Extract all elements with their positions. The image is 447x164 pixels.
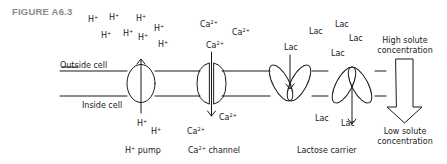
- h-pump-label: H+ pump: [125, 145, 161, 155]
- lac-molecules: Lac Lac Lac Lac Lac Lac Lac: [284, 20, 363, 128]
- svg-text:H+: H+: [158, 39, 168, 49]
- svg-text:H+: H+: [137, 118, 147, 128]
- svg-text:Lac: Lac: [341, 119, 355, 128]
- svg-text:H+: H+: [109, 12, 119, 22]
- svg-text:Ca2+: Ca2+: [232, 27, 250, 37]
- svg-text:H+: H+: [101, 30, 111, 40]
- svg-text:Low solute: Low solute: [384, 127, 427, 136]
- svg-text:Lac: Lac: [331, 49, 345, 58]
- low-concentration-label: Low solute concentration: [377, 127, 432, 146]
- svg-text:Lac: Lac: [309, 27, 323, 36]
- ca-ions: Ca2+ Ca2+ Ca2+ Ca2+ Ca2+: [187, 19, 250, 136]
- svg-text:concentration: concentration: [377, 46, 432, 55]
- ca-channel-left-icon: [197, 63, 209, 104]
- concentration-gradient-arrow-icon: [387, 59, 422, 123]
- svg-text:Ca2+: Ca2+: [219, 112, 237, 122]
- svg-text:H+: H+: [151, 126, 161, 136]
- membrane-transport-diagram: Outside cell Inside cell H+ H+ H+ H+ H+ …: [0, 0, 447, 164]
- svg-text:H+: H+: [136, 13, 146, 23]
- h-ions-inside: H+ H+: [137, 118, 161, 136]
- h-ions-outside: H+ H+ H+ H+ H+ H+ H+ H+: [88, 12, 168, 49]
- high-concentration-label: High solute concentration: [377, 36, 432, 55]
- svg-text:concentration: concentration: [377, 137, 432, 146]
- svg-text:H+: H+: [123, 28, 133, 38]
- svg-text:Ca2+: Ca2+: [200, 19, 218, 29]
- svg-text:Ca2+: Ca2+: [187, 126, 205, 136]
- svg-text:H+: H+: [154, 23, 164, 33]
- svg-text:H+: H+: [138, 32, 148, 42]
- outside-cell-label: Outside cell: [60, 61, 107, 70]
- svg-text:Lac: Lac: [335, 20, 349, 29]
- svg-text:Lac: Lac: [284, 43, 298, 52]
- lactose-carrier-label: Lactose carrier: [297, 146, 357, 155]
- svg-text:Lac: Lac: [315, 114, 329, 123]
- ca-channel-right-icon: [214, 63, 226, 104]
- svg-text:Lac: Lac: [349, 34, 363, 43]
- inside-cell-label: Inside cell: [82, 101, 122, 110]
- ca-channel-label: Ca2+ channel: [188, 145, 240, 155]
- svg-text:H+: H+: [88, 14, 98, 24]
- svg-text:Ca2+: Ca2+: [206, 40, 224, 50]
- svg-text:High solute: High solute: [382, 36, 427, 45]
